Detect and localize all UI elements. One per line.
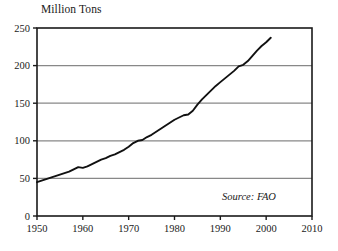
y-tick-label-50: 50 [20,173,31,184]
x-tick-label-2010: 2010 [302,223,323,234]
y-tick-labels: 250200150100500 [14,23,30,222]
x-tick-label-2000: 2000 [256,223,277,234]
gridlines [37,66,312,179]
x-tick-label-1950: 1950 [27,223,48,234]
y-tick-label-150: 150 [14,98,30,109]
data-series-line [37,38,271,182]
x-tick-label-1960: 1960 [72,223,93,234]
y-tick-label-0: 0 [25,211,30,222]
y-tick-label-100: 100 [14,135,30,146]
x-tick-label-1990: 1990 [210,223,231,234]
chart-plot-area: 250200150100500 195019601970198019902000… [0,0,338,251]
y-tick-label-250: 250 [14,23,30,34]
plot-frame [37,28,312,216]
x-tick-label-1970: 1970 [118,223,139,234]
y-tick-label-200: 200 [14,60,30,71]
source-annotation: Source: FAO [222,191,276,202]
x-tick-label-1980: 1980 [164,223,185,234]
chart-container: Million Tons 250200150100500 19501960197… [0,0,338,251]
x-tick-labels: 1950196019701980199020002010 [27,223,323,234]
